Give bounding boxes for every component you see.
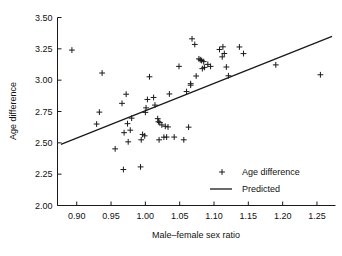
plus-marker	[127, 127, 133, 133]
plus-marker	[171, 134, 177, 140]
x-tick-label: 1.15	[240, 211, 258, 221]
plus-marker	[99, 70, 105, 76]
plus-marker	[193, 73, 199, 79]
plus-marker	[189, 36, 195, 42]
axis-tick-labels: 0.900.951.001.051.101.151.201.252.002.25…	[35, 13, 326, 221]
plus-marker	[241, 51, 247, 57]
predicted-regression-line	[61, 36, 332, 144]
plus-marker	[145, 97, 151, 103]
plus-marker	[165, 124, 171, 130]
x-tick-label: 1.05	[171, 211, 189, 221]
x-tick-label: 1.25	[308, 211, 326, 221]
y-tick-label: 3.25	[35, 44, 53, 54]
y-tick-label: 2.50	[35, 138, 53, 148]
y-tick-label: 3.50	[35, 13, 53, 23]
chart-legend: Age differencePredicted	[210, 167, 300, 194]
plus-marker	[164, 134, 170, 140]
plus-marker	[125, 139, 131, 145]
plus-marker	[119, 100, 125, 106]
legend-label: Age difference	[242, 167, 300, 177]
plus-marker	[176, 63, 182, 69]
x-tick-label: 0.90	[68, 211, 86, 221]
plus-marker	[192, 42, 198, 48]
y-tick-label: 3.00	[35, 75, 53, 85]
plus-marker	[217, 47, 223, 53]
plus-marker	[317, 72, 323, 78]
x-tick-label: 1.00	[137, 211, 155, 221]
plus-marker	[223, 64, 229, 70]
plus-marker	[112, 146, 118, 152]
plus-marker	[156, 137, 162, 143]
plus-marker	[138, 137, 144, 143]
plus-marker	[162, 123, 168, 129]
plus-marker	[138, 164, 144, 170]
plus-marker	[273, 62, 279, 68]
y-axis-label: Age difference	[8, 82, 18, 140]
plus-marker	[151, 95, 157, 101]
plus-marker	[94, 121, 100, 127]
plus-marker	[188, 81, 194, 87]
x-tick-label: 1.20	[274, 211, 292, 221]
plus-marker	[156, 119, 162, 125]
plus-marker	[69, 47, 75, 53]
plus-marker	[166, 91, 172, 97]
fit-line	[61, 36, 332, 144]
plus-marker	[123, 91, 129, 97]
plus-marker	[96, 109, 102, 115]
plus-marker	[220, 44, 226, 50]
plus-marker	[121, 130, 127, 136]
x-tick-label: 1.10	[205, 211, 223, 221]
y-tick-label: 2.00	[35, 201, 53, 211]
plus-marker	[147, 74, 153, 80]
plus-marker	[120, 167, 126, 173]
x-axis-label: Male–female sex ratio	[152, 230, 240, 240]
legend-label: Predicted	[242, 184, 280, 194]
scatter-chart: 0.900.951.001.051.101.151.201.252.002.25…	[0, 0, 342, 256]
data-points	[69, 36, 323, 173]
plus-marker	[237, 44, 243, 50]
plus-marker	[181, 137, 187, 143]
plus-marker	[186, 124, 192, 130]
plus-marker	[125, 121, 131, 127]
x-tick-label: 0.95	[102, 211, 120, 221]
y-tick-label: 2.25	[35, 169, 53, 179]
y-tick-label: 2.75	[35, 107, 53, 117]
